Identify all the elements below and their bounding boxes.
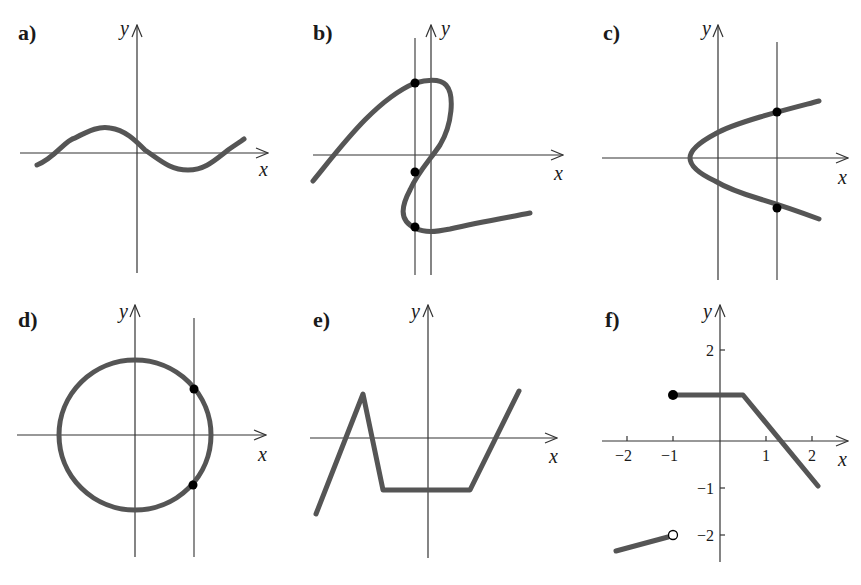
sideways-parabola [690,101,819,219]
x-tick-label: 1 [762,447,770,464]
y-axis-label: y [118,17,129,40]
x-axis-label: x [258,158,268,180]
intersection-dot [190,385,199,394]
wave-curve [37,127,244,170]
y-axis-label: y [409,300,420,323]
x-tick-label: −1 [661,447,678,464]
panel-c: c) x y [602,17,848,280]
x-axis-label: x [257,443,267,465]
panel-d-label: d) [18,307,38,332]
x-axis-label: x [553,162,563,184]
y-axis-label: y [439,17,450,40]
x-axis-label: x [837,166,847,188]
y-axis-label: y [117,300,128,323]
x-tick-label: 2 [808,447,816,464]
piecewise-linear-curve [316,391,519,514]
x-axis-label: x [837,448,847,470]
y-tick-label: −2 [697,527,714,544]
x-axis-label: x [548,445,558,467]
s-curve [313,80,530,231]
panel-f-label: f) [605,307,620,332]
y-axis-label: y [700,17,711,40]
y-tick-label: 2 [706,342,714,359]
closed-dot [668,390,678,400]
function-graphs-figure: a) x y b) x y c) x y d) x y [0,0,861,585]
open-dot [669,531,678,540]
panel-e: e) x y [310,300,558,558]
intersection-dot [411,223,420,232]
y-tick-label: −1 [697,480,714,497]
panel-d: d) x y [17,300,267,557]
panel-c-label: c) [603,20,620,45]
intersection-dot [773,204,782,213]
panel-f: f) x y −2 −1 1 2 2 −1 −2 [602,300,848,562]
intersection-dot [411,79,420,88]
intersection-dot [411,168,420,177]
y-axis-label: y [701,300,712,323]
panel-a-label: a) [18,20,36,45]
intersection-dot [189,481,198,490]
panel-a: a) x y [18,17,268,273]
panel-b-label: b) [313,20,333,45]
x-tick-label: −2 [615,447,632,464]
panel-e-label: e) [313,307,330,332]
panel-b: b) x y [313,17,563,275]
intersection-dot [773,108,782,117]
lower-segment [616,537,668,551]
